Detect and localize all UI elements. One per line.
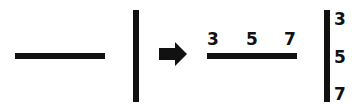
horizontal-label-3: 3 <box>207 31 219 48</box>
vertical-label-7: 7 <box>334 86 346 103</box>
right-arrow-icon <box>159 42 189 66</box>
horizontal-label-7: 7 <box>284 31 296 48</box>
horizontal-label-5: 5 <box>246 31 258 48</box>
left-vertical-line <box>133 10 139 102</box>
vertical-label-3: 3 <box>334 11 346 28</box>
right-horizontal-line <box>207 53 297 59</box>
left-horizontal-line <box>15 53 105 59</box>
vertical-label-5: 5 <box>334 49 346 66</box>
right-vertical-line <box>324 10 330 102</box>
